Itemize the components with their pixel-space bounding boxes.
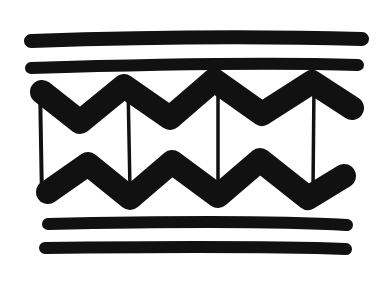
bottom-band-2	[45, 247, 346, 249]
bottom-band-1	[48, 222, 347, 225]
top-band-2	[31, 64, 358, 68]
lower-zigzag	[48, 160, 344, 198]
vertical-divider-4	[313, 85, 314, 190]
top-band-1	[31, 38, 362, 41]
decorative-border-pattern	[0, 0, 379, 285]
upper-zigzag	[42, 80, 352, 122]
